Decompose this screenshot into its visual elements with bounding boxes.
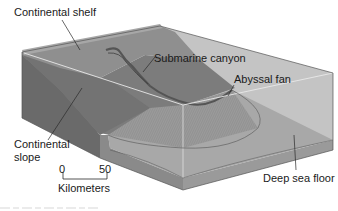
label-continental-slope-line2: slope	[14, 151, 40, 163]
label-submarine-canyon: Submarine canyon	[154, 52, 246, 64]
scale-unit: Kilometers	[58, 182, 110, 194]
scale-start: 0	[59, 163, 65, 175]
label-continental-slope-line1: Continental	[14, 138, 70, 150]
label-abyssal-fan: Abyssal fan	[234, 73, 291, 85]
scale-end: 50	[99, 163, 111, 175]
label-deep-sea-floor: Deep sea floor	[263, 172, 335, 184]
label-continental-shelf: Continental shelf	[14, 6, 96, 18]
